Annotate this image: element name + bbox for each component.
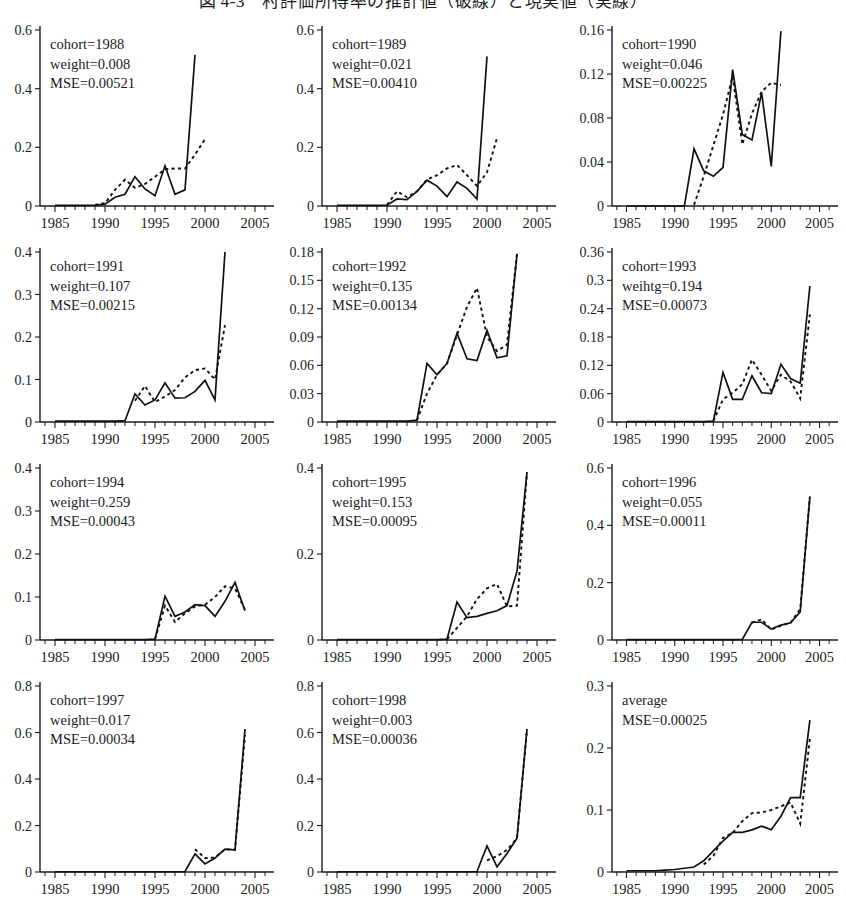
- x-tick-label: 1985: [612, 881, 641, 897]
- x-tick-label: 1985: [323, 431, 352, 447]
- x-tick-label: 1990: [373, 431, 402, 447]
- x-tick-label: 2000: [191, 215, 220, 231]
- y-tick-label: 0.24: [580, 302, 605, 317]
- y-tick-label: 0.2: [587, 576, 605, 591]
- x-tick-label: 1990: [373, 215, 402, 231]
- series-line-actual: [626, 497, 809, 640]
- chart-svg: 00.10.20.30.419851990199520002005: [0, 240, 282, 456]
- x-tick-label: 2005: [241, 215, 270, 231]
- y-tick-label: 0.36: [580, 245, 605, 260]
- chart-svg: 00.10.20.319851990199520002005: [564, 674, 846, 906]
- chart-svg: 00.20.40.619851990199520002005: [282, 18, 564, 240]
- y-tick-label: 0.12: [580, 67, 605, 82]
- x-tick-label: 1995: [709, 649, 738, 665]
- y-tick-label: 0.8: [297, 679, 315, 694]
- x-tick-label: 1985: [41, 215, 70, 231]
- y-tick-label: 0: [597, 633, 604, 648]
- x-tick-label: 1985: [41, 881, 70, 897]
- y-tick-label: 0.3: [587, 273, 605, 288]
- x-tick-label: 1995: [141, 215, 170, 231]
- x-tick-label: 2000: [757, 649, 786, 665]
- y-tick-label: 0: [307, 633, 314, 648]
- x-tick-label: 1985: [612, 215, 641, 231]
- x-tick-label: 1990: [91, 881, 120, 897]
- x-tick-label: 2000: [757, 881, 786, 897]
- x-tick-label: 2000: [191, 649, 220, 665]
- y-tick-label: 0: [307, 199, 314, 214]
- x-tick-label: 1985: [323, 649, 352, 665]
- panel-grid: 00.20.40.619851990199520002005cohort=198…: [0, 18, 846, 908]
- series-line-estimate: [417, 254, 517, 420]
- x-tick-label: 2000: [757, 215, 786, 231]
- x-tick-label: 1985: [323, 881, 352, 897]
- y-tick-label: 0.1: [587, 803, 605, 818]
- x-tick-label: 2000: [757, 431, 786, 447]
- x-tick-label: 1985: [41, 649, 70, 665]
- y-tick-label: 0.4: [15, 461, 33, 476]
- x-tick-label: 1995: [709, 431, 738, 447]
- y-tick-label: 0.2: [297, 819, 315, 834]
- y-tick-label: 0.06: [580, 387, 605, 402]
- x-tick-label: 1990: [91, 649, 120, 665]
- x-tick-label: 2000: [473, 649, 502, 665]
- y-tick-label: 0.2: [297, 547, 315, 562]
- y-tick-label: 0.4: [15, 82, 33, 97]
- x-tick-label: 1985: [612, 649, 641, 665]
- y-tick-label: 0.6: [297, 23, 315, 38]
- x-tick-label: 1990: [660, 215, 689, 231]
- y-tick-label: 0.18: [580, 330, 605, 345]
- y-tick-label: 0.1: [15, 373, 33, 388]
- chart-svg: 00.20.40.619851990199520002005: [564, 456, 846, 674]
- y-tick-label: 0: [307, 865, 314, 880]
- x-tick-label: 1985: [323, 215, 352, 231]
- series-line-actual: [55, 252, 225, 421]
- x-tick-label: 1995: [141, 881, 170, 897]
- x-tick-label: 2005: [523, 881, 552, 897]
- x-tick-label: 2000: [191, 881, 220, 897]
- series-line-actual: [55, 55, 195, 205]
- x-tick-label: 1990: [91, 431, 120, 447]
- chart-svg: 00.030.060.090.120.150.18198519901995200…: [282, 240, 564, 456]
- chart-panel: 00.10.20.30.419851990199520002005cohort=…: [0, 456, 282, 674]
- x-tick-label: 1995: [141, 431, 170, 447]
- chart-panel: 00.20.40.60.819851990199520002005cohort=…: [0, 674, 282, 906]
- x-tick-label: 1990: [660, 649, 689, 665]
- y-tick-label: 0.6: [587, 461, 605, 476]
- y-tick-label: 0.3: [587, 679, 605, 694]
- chart-panel: 00.040.080.120.1619851990199520002005coh…: [564, 18, 846, 240]
- x-tick-label: 2005: [805, 881, 834, 897]
- y-tick-label: 0.09: [290, 330, 315, 345]
- y-tick-label: 0.4: [587, 518, 605, 533]
- x-tick-label: 2000: [473, 431, 502, 447]
- chart-svg: 00.20.40.60.819851990199520002005: [282, 674, 564, 906]
- y-tick-label: 0.8: [15, 679, 33, 694]
- x-tick-label: 1995: [423, 215, 452, 231]
- y-tick-label: 0.12: [580, 358, 605, 373]
- series-line-actual: [626, 286, 809, 422]
- y-tick-label: 0.06: [290, 358, 315, 373]
- y-tick-label: 0.4: [297, 772, 315, 787]
- x-tick-label: 2005: [805, 215, 834, 231]
- y-tick-label: 0.6: [15, 23, 33, 38]
- figure-title: 図 4-3 村評価所得率の推計値（破線）と現実値（実線）: [0, 0, 846, 12]
- x-tick-label: 1985: [41, 431, 70, 447]
- x-tick-label: 1995: [423, 881, 452, 897]
- chart-panel: 00.10.20.30.419851990199520002005cohort=…: [0, 240, 282, 456]
- y-tick-label: 0.2: [15, 330, 33, 345]
- chart-svg: 00.20.40.60.819851990199520002005: [0, 674, 282, 906]
- chart-panel: 00.20.419851990199520002005cohort=1995we…: [282, 456, 564, 674]
- y-tick-label: 0.2: [15, 547, 33, 562]
- chart-svg: 00.060.120.180.240.30.361985199019952000…: [564, 240, 846, 456]
- x-tick-label: 2005: [805, 431, 834, 447]
- series-line-actual: [626, 31, 780, 206]
- y-tick-label: 0.4: [15, 772, 33, 787]
- y-tick-label: 0: [25, 865, 32, 880]
- x-tick-label: 2000: [473, 881, 502, 897]
- series-line-estimate: [155, 586, 245, 639]
- series-line-estimate: [135, 325, 225, 402]
- y-tick-label: 0.16: [580, 23, 605, 38]
- x-tick-label: 2000: [473, 215, 502, 231]
- x-tick-label: 2005: [805, 649, 834, 665]
- y-tick-label: 0.6: [15, 726, 33, 741]
- x-tick-label: 1995: [423, 649, 452, 665]
